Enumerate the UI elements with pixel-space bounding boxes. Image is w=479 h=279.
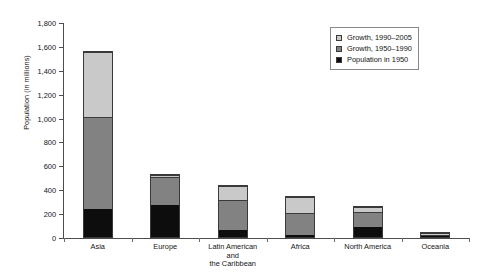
y-tick-label: 1,400 bbox=[22, 66, 56, 75]
y-tick-label: 1,000 bbox=[22, 114, 56, 123]
bar-segment[interactable] bbox=[354, 227, 382, 237]
stacked-bar[interactable] bbox=[150, 174, 180, 238]
x-tick-mark bbox=[132, 238, 133, 242]
stacked-bar[interactable] bbox=[420, 232, 450, 238]
legend-item-label: Growth, 1990–2005 bbox=[347, 33, 412, 42]
x-category-label: Europe bbox=[132, 243, 200, 252]
bar-slot bbox=[64, 23, 132, 238]
y-tick-label: 600 bbox=[22, 162, 56, 171]
bar-slot bbox=[199, 23, 267, 238]
y-axis-tick-labels: 02004006008001,0001,2001,4001,6001,800 bbox=[22, 0, 56, 279]
stacked-bar[interactable] bbox=[83, 51, 113, 238]
stacked-bar[interactable] bbox=[218, 185, 248, 238]
x-tick-mark bbox=[199, 238, 200, 242]
legend-item[interactable]: Growth, 1990–2005 bbox=[336, 32, 412, 43]
bar-segment[interactable] bbox=[84, 209, 112, 237]
legend-item[interactable]: Population in 1950 bbox=[336, 54, 412, 65]
bar-segment[interactable] bbox=[286, 213, 314, 234]
legend-item[interactable]: Growth, 1950–1990 bbox=[336, 43, 412, 54]
stacked-bar[interactable] bbox=[285, 196, 315, 238]
bar-segment[interactable] bbox=[286, 197, 314, 213]
bar-slot bbox=[132, 23, 200, 238]
bar-segment[interactable] bbox=[286, 235, 314, 238]
black-swatch bbox=[336, 57, 342, 63]
x-tick-mark bbox=[469, 238, 470, 242]
legend-item-label: Population in 1950 bbox=[347, 55, 408, 64]
mid-gray-swatch bbox=[336, 46, 342, 52]
population-growth-stacked-bar-chart: Population (in millions) 02004006008001,… bbox=[0, 0, 479, 279]
y-tick-label: 400 bbox=[22, 186, 56, 195]
bar-segment[interactable] bbox=[219, 186, 247, 200]
bar-slot bbox=[267, 23, 335, 238]
light-gray-swatch bbox=[336, 35, 342, 41]
x-tick-mark bbox=[334, 238, 335, 242]
bar-segment[interactable] bbox=[354, 212, 382, 227]
x-tick-mark bbox=[64, 238, 65, 242]
legend-item-label: Growth, 1950–1990 bbox=[347, 44, 412, 53]
x-category-label: Oceania bbox=[402, 243, 470, 252]
y-tick-label: 0 bbox=[22, 234, 56, 243]
bar-segment[interactable] bbox=[151, 205, 179, 237]
x-category-label: Latin Americanandthe Caribbean bbox=[199, 243, 267, 269]
y-tick-label: 1,800 bbox=[22, 19, 56, 28]
chart-legend: Growth, 1990–2005Growth, 1950–1990Popula… bbox=[330, 27, 419, 70]
bar-segment[interactable] bbox=[219, 200, 247, 230]
bar-segment[interactable] bbox=[151, 177, 179, 205]
y-tick-label: 800 bbox=[22, 138, 56, 147]
bar-segment[interactable] bbox=[84, 52, 112, 117]
x-tick-mark bbox=[267, 238, 268, 242]
bar-segment[interactable] bbox=[421, 236, 449, 237]
y-tick-label: 200 bbox=[22, 210, 56, 219]
x-category-label: Africa bbox=[267, 243, 335, 252]
x-category-label: Asia bbox=[64, 243, 132, 252]
x-category-label: North America bbox=[334, 243, 402, 252]
bar-segment[interactable] bbox=[84, 117, 112, 209]
bar-segment[interactable] bbox=[219, 230, 247, 237]
stacked-bar[interactable] bbox=[353, 206, 383, 238]
x-tick-mark bbox=[402, 238, 403, 242]
y-tick-label: 1,600 bbox=[22, 42, 56, 51]
y-tick-label: 1,200 bbox=[22, 90, 56, 99]
